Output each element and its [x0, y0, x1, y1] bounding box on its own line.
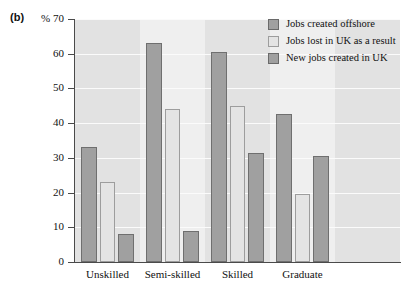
y-axis-tick	[68, 123, 74, 124]
y-axis-tick	[68, 19, 74, 20]
y-axis-tick	[68, 54, 74, 55]
legend-swatch-icon	[268, 53, 279, 64]
bar	[248, 153, 264, 262]
bar	[146, 43, 162, 262]
y-axis-tick-label: 70	[34, 13, 64, 24]
legend-label: Jobs lost in UK as a result	[286, 36, 396, 47]
y-axis-tick	[68, 193, 74, 194]
y-axis-tick	[68, 158, 74, 159]
x-axis-line	[74, 262, 401, 263]
legend-label: New jobs created in UK	[286, 53, 387, 64]
bar	[118, 234, 134, 262]
legend-item: New jobs created in UK	[268, 50, 410, 67]
bar	[183, 231, 199, 262]
x-axis-category-label: Semi-skilled	[140, 268, 205, 280]
bar	[295, 194, 311, 262]
y-axis-tick-label: 50	[34, 82, 64, 93]
y-axis-tick-label: 60	[34, 48, 64, 59]
bar	[313, 156, 329, 262]
bar	[211, 52, 227, 262]
y-axis-line	[74, 19, 75, 263]
x-axis-category-label: Unskilled	[75, 268, 140, 280]
y-axis-tick-label: 20	[34, 187, 64, 198]
x-axis-category-label: Skilled	[205, 268, 270, 280]
figure-panel-b: (b) % 010203040506070 UnskilledSemi-skil…	[0, 0, 412, 290]
x-axis-category-label: Graduate	[270, 268, 335, 280]
legend-swatch-icon	[268, 19, 279, 30]
bar	[81, 147, 97, 262]
y-axis-tick-label: 30	[34, 152, 64, 163]
gridline	[75, 88, 400, 89]
bar	[165, 109, 181, 262]
y-axis-tick	[68, 262, 74, 263]
y-axis-tick-label: 10	[34, 221, 64, 232]
legend-swatch-icon	[268, 36, 279, 47]
panel-label: (b)	[10, 11, 24, 23]
legend-label: Jobs created offshore	[286, 19, 375, 30]
y-axis-tick-label: 40	[34, 117, 64, 128]
chart-legend: Jobs created offshoreJobs lost in UK as …	[268, 16, 410, 67]
bar	[230, 106, 246, 262]
legend-item: Jobs created offshore	[268, 16, 410, 33]
y-axis-tick	[68, 227, 74, 228]
y-axis-tick	[68, 88, 74, 89]
y-axis-tick-label: 0	[34, 256, 64, 267]
legend-item: Jobs lost in UK as a result	[268, 33, 410, 50]
bar	[100, 182, 116, 262]
bar	[276, 114, 292, 262]
